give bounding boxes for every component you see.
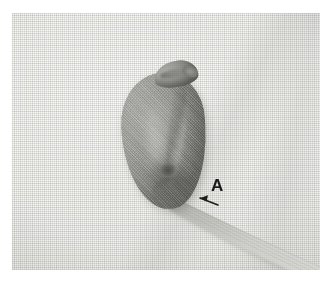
- annotation-label-a: A: [211, 177, 223, 194]
- figure-root: A: [0, 0, 332, 281]
- mesh-pouch-specimen: [116, 61, 210, 209]
- photograph-plate: A: [12, 13, 320, 270]
